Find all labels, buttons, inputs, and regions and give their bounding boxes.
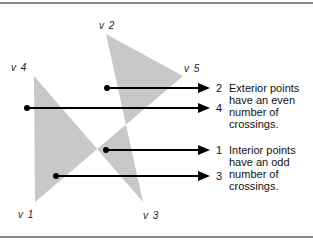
crossing-count-3: 3 xyxy=(216,170,222,182)
vertex-label-v2: v 2 xyxy=(99,20,115,31)
vertex-label-v3: v 3 xyxy=(143,210,159,221)
crossing-count-4: 4 xyxy=(216,102,222,114)
interior-note: Interior points have an odd number of cr… xyxy=(229,144,313,192)
vertex-label-v4: v 4 xyxy=(11,62,27,73)
crossing-count-1: 1 xyxy=(216,144,222,156)
vertex-label-v1: v 1 xyxy=(18,209,34,220)
vertex-label-v5: v 5 xyxy=(184,63,200,74)
crossing-count-2: 2 xyxy=(216,82,222,94)
exterior-note: Exterior points have an even number of c… xyxy=(229,82,313,130)
bottom-rule xyxy=(0,236,313,238)
